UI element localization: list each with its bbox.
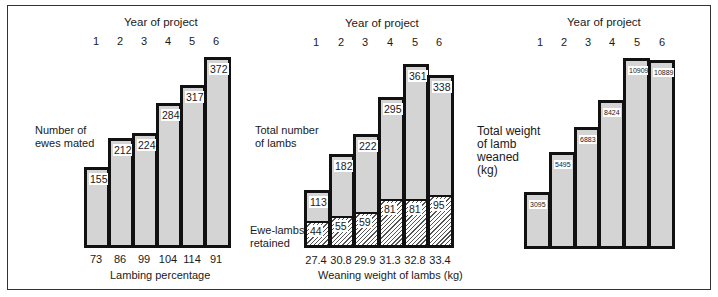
chart3-year-2: 2 (552, 36, 576, 48)
chart2-bar-2: 182 55 (329, 154, 355, 248)
chart3-bar-1: 3095 (524, 192, 551, 249)
chart3-year-5: 5 (625, 36, 649, 48)
chart2-bottom-5: 32.8 (402, 254, 428, 266)
chart1-year-6: 6 (204, 35, 228, 47)
chart1-bottom-3: 99 (132, 253, 156, 265)
chart2-ewe-lambs-segment-5: 81 (406, 199, 426, 245)
chart3-year-1: 1 (528, 36, 552, 48)
chart2-year-6: 6 (427, 36, 451, 48)
chart1-xlabel: Lambing percentage (110, 269, 210, 281)
chart1-bottom-1: 73 (84, 253, 108, 265)
chart3-bar-5: 10909 (623, 58, 650, 249)
chart3-bar-4: 8424 (598, 100, 625, 249)
chart1-bar-2: 212 (108, 138, 134, 248)
chart1-bar-4: 284 (156, 103, 182, 248)
chart3-bar-2: 5495 (549, 152, 576, 249)
chart2-sublabel: Ewe-lambs retained (250, 224, 304, 250)
chart3-title: Year of project (567, 16, 641, 28)
chart2-ewe-lambs-segment-1: 44 (307, 221, 328, 245)
chart1-year-5: 5 (180, 35, 204, 47)
chart2-ylabel: Total number of lambs (255, 124, 319, 150)
chart1-year-4: 4 (156, 35, 180, 47)
chart2-bar-6: 338 95 (427, 75, 454, 248)
chart2-year-2: 2 (329, 36, 353, 48)
chart1-title: Year of project (124, 16, 198, 28)
chart2-year-1: 1 (304, 36, 328, 48)
chart1-bottom-5: 114 (180, 253, 204, 265)
chart1-bottom-2: 86 (108, 253, 132, 265)
chart1-bottom-4: 104 (156, 253, 180, 265)
chart3-ylabel: Total weight of lamb weaned (kg) (477, 125, 540, 177)
chart3-bar-3: 6883 (574, 127, 600, 249)
chart2-ewe-lambs-segment-6: 95 (430, 195, 451, 245)
chart2-bottom-1: 27.4 (303, 254, 329, 266)
chart1-bar-3: 224 (132, 133, 158, 248)
chart1-bar-6: 372 (204, 57, 231, 248)
chart2-bottom-4: 31.3 (377, 254, 403, 266)
chart2-bar-1: 113 44 (304, 190, 331, 248)
chart3-bar-6: 10889 (648, 60, 675, 249)
chart1-bar-5: 317 (180, 85, 206, 248)
chart2-xlabel: Weaning weight of lambs (kg) (318, 269, 463, 281)
chart1-year-3: 3 (132, 35, 156, 47)
chart2-ewe-lambs-segment-3: 59 (356, 212, 377, 245)
chart2-bar-5: 361 81 (403, 64, 429, 248)
chart2-ewe-lambs-segment-2: 55 (332, 216, 352, 245)
chart2-ewe-lambs-segment-4: 81 (381, 199, 402, 245)
chart2-bottom-6: 33.4 (427, 254, 453, 266)
chart2-bar-4: 295 81 (378, 97, 405, 248)
chart2-bar-3: 222 59 (353, 134, 380, 248)
chart1-ylabel: Number of ewes mated (35, 124, 94, 150)
chart2-year-5: 5 (403, 36, 427, 48)
chart2-title: Year of project (345, 17, 419, 29)
chart2-bottom-3: 29.9 (352, 254, 378, 266)
chart1-year-1: 1 (84, 35, 108, 47)
chart3-year-4: 4 (600, 36, 624, 48)
chart2-year-3: 3 (353, 36, 377, 48)
chart3-year-6: 6 (650, 36, 674, 48)
chart3-year-3: 3 (576, 36, 600, 48)
chart2-year-4: 4 (378, 36, 402, 48)
chart1-bottom-6: 91 (204, 253, 228, 265)
chart2-bottom-2: 30.8 (328, 254, 354, 266)
chart1-year-2: 2 (108, 35, 132, 47)
chart1-bar-1: 155 (84, 167, 110, 248)
